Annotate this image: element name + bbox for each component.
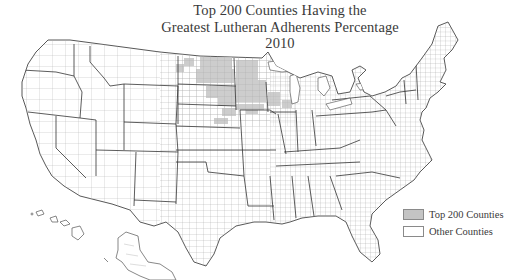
map-legend: Top 200 Counties Other Counties [403,207,504,241]
legend-item-other: Other Counties [403,224,504,238]
legend-label-other: Other Counties [429,226,493,237]
alaska-inset [104,232,176,280]
title-line-2: Greatest Lutheran Adherents Percentage [150,19,410,36]
map-title: Top 200 Counties Having the Greatest Lut… [150,2,410,52]
legend-item-top-200: Top 200 Counties [403,207,504,221]
title-line-3: 2010 [150,35,410,52]
legend-swatch-other [403,226,424,237]
hawaii-inset [31,210,84,240]
legend-swatch-top-200 [403,209,424,220]
legend-label-top-200: Top 200 Counties [429,209,504,220]
title-line-1: Top 200 Counties Having the [150,2,410,19]
